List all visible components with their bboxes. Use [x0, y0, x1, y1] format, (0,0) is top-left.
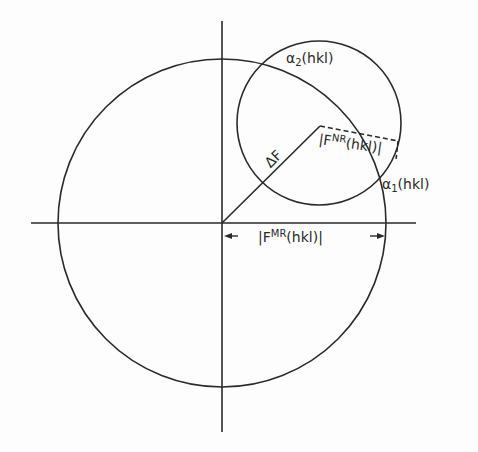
left-arrow-icon: [224, 233, 232, 239]
alpha1-label: α1(hkl): [382, 177, 429, 194]
diagram-canvas: α2(hkl) α1(hkl) ΔF |FNR(hkl)| |FMR(hkl)|: [0, 0, 478, 452]
diagram-svg: [0, 0, 478, 452]
delta-f-vector: [222, 126, 320, 223]
fnr-dashed-tick: [396, 141, 398, 160]
fmr-label: |FMR(hkl)|: [258, 229, 323, 244]
right-arrow-icon: [377, 233, 385, 239]
alpha2-label: α2(hkl): [286, 51, 333, 68]
